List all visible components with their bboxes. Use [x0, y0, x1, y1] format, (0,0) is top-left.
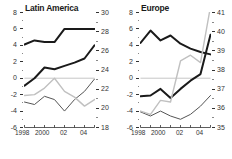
right-axis-tick-label: 28: [101, 28, 109, 35]
right-axis-tick: [212, 70, 215, 71]
left-axis-minor-tick: [22, 102, 24, 103]
right-axis-tick-label: 18: [101, 124, 109, 131]
right-axis-minor-tick: [96, 22, 98, 23]
left-axis-minor-tick: [138, 20, 140, 21]
right-axis-tick: [212, 89, 215, 90]
right-axis-tick: [212, 50, 215, 51]
left-axis-tick: [136, 28, 139, 29]
chart-svg: [24, 12, 95, 128]
x-axis-tick-label: 04: [80, 129, 87, 136]
right-axis-tick-label: 40: [217, 28, 225, 35]
left-axis-tick: [136, 78, 139, 79]
right-axis-minor-tick: [96, 60, 98, 61]
right-axis-tick: [96, 50, 99, 51]
right-axis-minor-tick: [96, 79, 98, 80]
left-axis-minor-tick: [22, 37, 24, 38]
right-axis-tick-label: 22: [101, 85, 109, 92]
plot-area-latin-america: [24, 12, 94, 127]
panel-latin-america: Latin America 86420-2-4-6302826242220181…: [0, 0, 116, 159]
data-series-line: [25, 29, 95, 45]
right-axis-tick: [212, 31, 215, 32]
left-axis-tick: [136, 94, 139, 95]
right-axis-minor-tick: [96, 41, 98, 42]
left-axis-tick: [20, 78, 23, 79]
two-panel-line-chart-figure: Latin America 86420-2-4-6302826242220181…: [0, 0, 232, 159]
x-axis-tick-label: 1998: [131, 129, 145, 136]
right-axis-minor-tick: [212, 60, 214, 61]
left-axis-tick-label: -4: [0, 107, 17, 114]
left-axis-minor-tick: [22, 70, 24, 71]
data-series-line: [25, 45, 95, 85]
right-axis-tick: [96, 89, 99, 90]
left-axis-tick-label: -2: [116, 91, 133, 98]
right-axis-tick-label: 39: [217, 47, 225, 54]
right-axis-tick: [212, 127, 215, 128]
right-axis-minor-tick: [212, 117, 214, 118]
right-axis-minor-tick: [96, 98, 98, 99]
left-axis-tick-label: 0: [116, 74, 133, 81]
data-series-line: [141, 35, 211, 98]
left-axis-minor-tick: [138, 86, 140, 87]
left-axis-tick: [20, 127, 23, 128]
left-axis-tick-label: -4: [116, 107, 133, 114]
left-axis-tick-label: 6: [0, 25, 17, 32]
left-axis-tick-label: 2: [0, 58, 17, 65]
right-axis-minor-tick: [212, 98, 214, 99]
left-axis-tick: [20, 45, 23, 46]
data-series-line: [141, 95, 211, 119]
left-axis-minor-tick: [138, 37, 140, 38]
right-axis-tick-label: 24: [101, 66, 109, 73]
right-axis-tick-label: 35: [217, 124, 225, 131]
left-axis-tick: [20, 61, 23, 62]
right-axis-minor-tick: [212, 22, 214, 23]
left-axis-tick: [20, 28, 23, 29]
x-axis-tick-label: 1998: [15, 129, 29, 136]
left-axis-minor-tick: [22, 20, 24, 21]
right-axis-minor-tick: [212, 41, 214, 42]
left-axis-tick: [20, 94, 23, 95]
x-axis-tick-label: 04: [196, 129, 203, 136]
right-axis-tick-label: 36: [217, 104, 225, 111]
right-axis-tick: [96, 127, 99, 128]
right-axis-tick: [96, 12, 99, 13]
left-axis-minor-tick: [138, 53, 140, 54]
right-axis-tick: [96, 108, 99, 109]
data-series-line: [141, 31, 211, 55]
left-axis-tick-label: -2: [0, 91, 17, 98]
left-axis-tick: [136, 111, 139, 112]
left-axis-tick: [136, 127, 139, 128]
x-axis-tick-label: 02: [176, 129, 183, 136]
left-axis-tick: [136, 12, 139, 13]
right-axis-minor-tick: [96, 117, 98, 118]
left-axis-tick-label: 0: [0, 74, 17, 81]
chart-svg: [140, 12, 211, 128]
right-axis-tick-label: 26: [101, 47, 109, 54]
left-axis-minor-tick: [138, 102, 140, 103]
right-axis-tick: [212, 108, 215, 109]
left-axis-tick-label: 2: [116, 58, 133, 65]
left-axis-minor-tick: [22, 53, 24, 54]
x-axis-tick-label: 02: [60, 129, 67, 136]
left-axis-tick-label: 4: [116, 41, 133, 48]
left-axis-tick-label: 8: [0, 9, 17, 16]
right-axis-tick: [96, 31, 99, 32]
x-axis-tick-label: 2000: [35, 129, 49, 136]
left-axis-tick: [136, 61, 139, 62]
left-axis-tick-label: 8: [116, 9, 133, 16]
left-axis-tick: [136, 45, 139, 46]
right-axis-tick-label: 38: [217, 66, 225, 73]
right-axis-tick: [96, 70, 99, 71]
data-series-line: [141, 12, 211, 114]
right-axis-tick-label: 30: [101, 9, 109, 16]
plot-area-europe: [140, 12, 210, 127]
left-axis-tick: [20, 111, 23, 112]
left-axis-minor-tick: [138, 70, 140, 71]
left-axis-tick-label: 6: [116, 25, 133, 32]
right-axis-tick-label: 37: [217, 85, 225, 92]
x-axis-tick-label: 2000: [151, 129, 165, 136]
panel-europe: Europe 86420-2-4-64140393837363519982000…: [116, 0, 232, 159]
left-axis-tick: [20, 12, 23, 13]
left-axis-minor-tick: [22, 119, 24, 120]
right-axis-tick-label: 41: [217, 9, 225, 16]
left-axis-tick-label: 4: [0, 41, 17, 48]
